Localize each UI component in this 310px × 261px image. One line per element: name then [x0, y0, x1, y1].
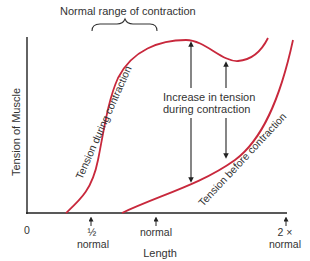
tick-label-normal: normal — [140, 226, 172, 238]
annotation-line1: Increase in tension — [163, 91, 255, 103]
range-title: Normal range of contraction — [60, 5, 196, 17]
tick-label-2x-normal: normal — [269, 238, 301, 250]
tick-label-half-normal: normal — [77, 238, 109, 250]
tick-label-zero: 0 — [24, 224, 30, 236]
annotation-line2: during contraction — [163, 103, 250, 115]
tick-label-2x: 2 × — [278, 226, 293, 238]
label-tension-before: Tension before contraction — [196, 110, 289, 208]
length-tension-diagram: Normal range of contraction Tension of M… — [0, 0, 310, 261]
range-brace — [92, 19, 157, 31]
x-axis-label: Length — [143, 247, 177, 259]
label-tension-during: Tension during contraction — [73, 64, 134, 181]
tick-label-half: ½ — [88, 226, 97, 238]
y-axis-label: Tension of Muscle — [10, 88, 22, 176]
